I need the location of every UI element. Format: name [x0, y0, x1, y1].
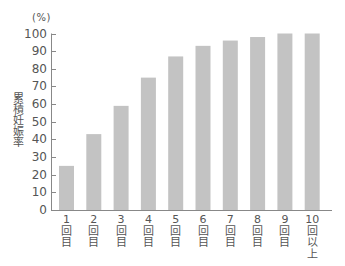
x-tick-label: 1回目	[57, 214, 77, 249]
y-tick-label: 50	[32, 115, 47, 129]
cumulative-pregnancy-rate-chart: (%) 累積妊娠率 0102030405060708090100 1回目2回目3…	[0, 0, 345, 266]
y-tick-label: 20	[32, 168, 47, 182]
bar	[277, 34, 292, 211]
x-tick-label: 2回目	[84, 214, 104, 249]
bar	[141, 78, 156, 210]
bar	[86, 134, 101, 210]
y-tick-label: 80	[32, 62, 47, 76]
bar	[223, 41, 238, 210]
bar	[59, 166, 74, 210]
y-tick-label: 10	[32, 185, 47, 199]
x-tick-label: 10回以上	[302, 214, 322, 260]
bar	[305, 34, 320, 211]
x-tick-label: 7回目	[220, 214, 240, 249]
y-tick-label: 100	[24, 27, 47, 41]
y-tick-label: 30	[32, 150, 47, 164]
y-tick-label: 90	[32, 44, 47, 58]
x-tick-label: 9回目	[275, 214, 295, 249]
bar	[250, 37, 265, 210]
y-tick-label: 40	[32, 132, 47, 146]
x-tick-label: 3回目	[111, 214, 131, 249]
y-tick-label: 60	[32, 97, 47, 111]
x-tick-label: 5回目	[166, 214, 186, 249]
x-tick-label: 8回目	[248, 214, 268, 249]
y-tick-label: 70	[32, 79, 47, 93]
bar	[196, 46, 211, 210]
x-tick-label: 6回目	[193, 214, 213, 249]
x-tick-label: 4回目	[138, 214, 158, 249]
bar	[168, 56, 183, 210]
y-tick-label: 0	[39, 203, 47, 217]
bar	[114, 106, 129, 210]
